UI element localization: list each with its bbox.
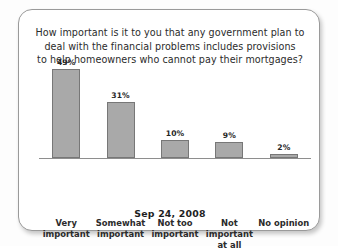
bar-value-label: 2% [257, 143, 311, 152]
chart-plot-area: 49%31%10%9%2% VeryimportantSomewhatimpor… [19, 68, 321, 178]
bar-column: 49% [39, 67, 93, 158]
bar [215, 142, 243, 158]
x-axis-label: Somewhatimportant [90, 218, 152, 240]
chart-title-line-1: How important is it to you that any gove… [29, 26, 311, 40]
bar-series: 49%31%10%9%2% [39, 68, 311, 159]
chart-title-line-2: deal with the financial problems include… [29, 40, 311, 54]
x-axis-label-line: important [198, 229, 260, 240]
x-axis-label-line: Not [198, 218, 260, 229]
bar-value-label: 31% [94, 91, 148, 100]
x-axis-label: Veryimportant [35, 218, 97, 240]
bar-column: 10% [148, 67, 202, 158]
bar-value-label: 49% [39, 58, 93, 67]
x-axis-label-line: Somewhat [90, 218, 152, 229]
bar [52, 69, 80, 158]
chart-caption-date: Sep 24, 2008 [29, 208, 311, 219]
x-axis-label-line: Very [35, 218, 97, 229]
bar-column: 2% [257, 67, 311, 158]
bar-column: 31% [94, 67, 148, 158]
x-axis-label-line: important [90, 229, 152, 240]
bar [161, 140, 189, 158]
x-axis-label-line: important [144, 229, 206, 240]
x-axis-category-labels: VeryimportantSomewhatimportantNot tooimp… [39, 218, 311, 252]
x-axis-line [39, 158, 311, 159]
x-axis-label-line: Not too [144, 218, 206, 229]
bar-value-label: 9% [202, 131, 256, 140]
chart-card: How important is it to you that any gove… [18, 9, 320, 231]
x-axis-label-line: important [35, 229, 97, 240]
x-axis-label: No opinion [253, 218, 315, 229]
bar-value-label: 10% [148, 129, 202, 138]
bar-column: 9% [202, 67, 256, 158]
x-axis-label: Notimportantat all [198, 218, 260, 252]
x-axis-label: Not tooimportant [144, 218, 206, 240]
bar [107, 102, 135, 158]
x-axis-label-line: at all [198, 240, 260, 251]
x-axis-label-line: No opinion [253, 218, 315, 229]
